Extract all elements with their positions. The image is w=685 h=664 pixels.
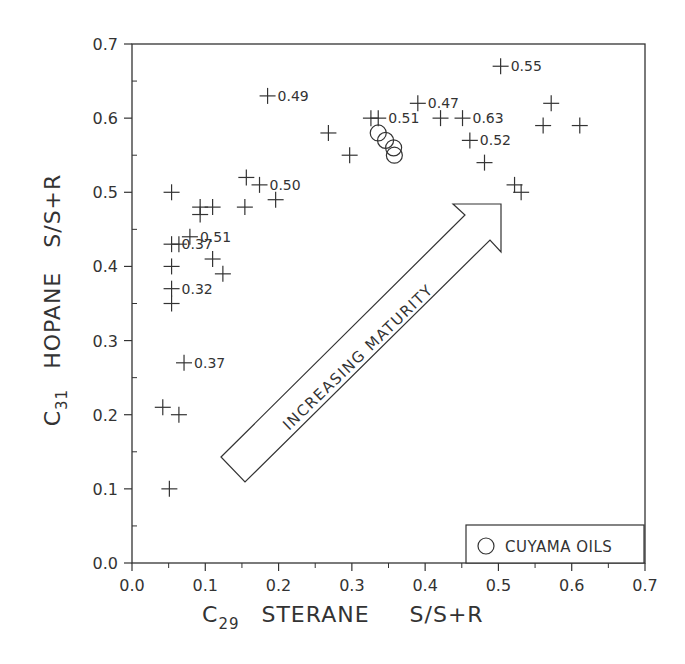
plus-marker: [205, 199, 221, 215]
plus-marker: [455, 110, 471, 126]
plus-marker: [433, 110, 449, 126]
point-label: 0.51: [388, 110, 419, 126]
x-tick-label: 0.1: [193, 576, 218, 595]
y-tick-label: 0.6: [93, 109, 118, 128]
plus-marker: [462, 132, 478, 148]
point-label: 0.47: [428, 95, 459, 111]
plus-marker: [493, 58, 509, 74]
plus-marker: [268, 192, 284, 208]
legend: CUYAMA OILS: [466, 525, 644, 563]
plus-marker: [164, 258, 180, 274]
arrow-annotation: INCREASING MATURITY: [279, 281, 437, 434]
y-axis-label: C31HOPANES/S+R: [40, 174, 71, 427]
x-tick-label: 0.3: [339, 576, 364, 595]
y-tick-label: 0.2: [93, 406, 118, 425]
y-axis-ticks: 0.00.10.20.30.40.50.60.7: [93, 35, 137, 573]
x-tick-label: 0.2: [266, 576, 291, 595]
plus-marker: [260, 88, 276, 104]
plus-marker: [513, 184, 529, 200]
y-tick-label: 0.1: [93, 480, 118, 499]
y-tick-label: 0.3: [93, 332, 118, 351]
plus-marker: [535, 118, 551, 134]
svg-text:C31HOPANES/S+R: C31HOPANES/S+R: [40, 174, 71, 427]
x-axis-ticks: 0.00.10.20.30.40.50.60.7: [119, 563, 657, 595]
plus-marker: [252, 177, 268, 193]
point-label: 0.63: [473, 110, 504, 126]
x-tick-label: 0.0: [119, 576, 144, 595]
plus-marker: [572, 118, 588, 134]
plus-marker: [342, 147, 358, 163]
point-label: 0.37: [194, 355, 225, 371]
plus-marker: [320, 125, 336, 141]
plus-marker: [215, 266, 231, 282]
x-axis-label: C29STERANES/S+R: [202, 602, 484, 633]
point-label: 0.52: [480, 132, 511, 148]
plus-marker: [176, 355, 192, 371]
x-tick-label: 0.4: [412, 576, 437, 595]
point-label: 0.50: [270, 177, 301, 193]
plus-marker: [543, 95, 559, 111]
point-label: 0.55: [511, 58, 542, 74]
legend-label: CUYAMA OILS: [505, 538, 612, 556]
plus-marker: [161, 481, 177, 497]
data-points: 0.370.320.370.510.500.490.510.470.630.52…: [155, 58, 588, 497]
plus-marker: [238, 169, 254, 185]
x-tick-label: 0.5: [486, 576, 511, 595]
y-tick-label: 0.7: [93, 35, 118, 54]
point-label: 0.51: [200, 229, 231, 245]
scatter-chart: 0.00.10.20.30.40.50.60.7 0.00.10.20.30.4…: [0, 0, 685, 664]
x-tick-label: 0.6: [559, 576, 584, 595]
plus-marker: [205, 251, 221, 267]
plus-marker: [370, 110, 386, 126]
y-tick-label: 0.0: [93, 554, 118, 573]
y-tick-label: 0.4: [93, 257, 118, 276]
svg-text:C29STERANES/S+R: C29STERANES/S+R: [202, 602, 484, 633]
plus-marker: [237, 199, 253, 215]
plus-marker: [507, 177, 523, 193]
plus-marker: [477, 155, 493, 171]
plus-marker: [171, 407, 187, 423]
point-label: 0.49: [278, 88, 309, 104]
x-tick-label: 0.7: [632, 576, 657, 595]
point-label: 0.32: [182, 281, 213, 297]
increasing-maturity-arrow: INCREASING MATURITY: [221, 204, 501, 482]
plus-marker: [164, 184, 180, 200]
plus-marker: [410, 95, 426, 111]
y-tick-label: 0.5: [93, 183, 118, 202]
plus-marker: [164, 281, 180, 297]
plus-marker: [164, 296, 180, 312]
plus-marker: [155, 399, 171, 415]
